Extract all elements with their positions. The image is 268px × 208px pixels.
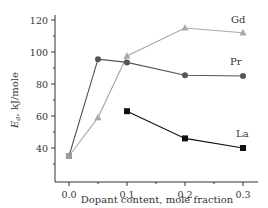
data-point-pr (95, 56, 101, 62)
series-gd (69, 24, 247, 156)
series-pr (69, 56, 246, 156)
data-point-la (240, 145, 246, 151)
x-tick-label: 0.0 (61, 189, 76, 200)
series-label-la: La (236, 128, 249, 139)
series-label-pr: Pr (230, 56, 242, 67)
data-point-gd (123, 52, 130, 58)
activation-energy-chart: 4060801001200.00.10.20.3Dopant content, … (0, 0, 268, 208)
y-tick-label: 40 (36, 143, 48, 154)
series-label-gd: Gd (231, 14, 246, 25)
data-point-gd (181, 24, 188, 30)
y-axis-title: Ea, kJ/mole (9, 72, 22, 129)
y-tick-label: 120 (30, 15, 48, 26)
data-point-pr (124, 59, 130, 65)
series-line-la (127, 111, 243, 148)
y-tick-label: 100 (30, 47, 48, 58)
series-group (66, 24, 247, 159)
data-point-pr (240, 73, 246, 79)
y-tick-label: 80 (36, 79, 48, 90)
y-tick-label: 60 (36, 111, 48, 122)
x-tick-label: 0.3 (235, 189, 250, 200)
data-point-la (124, 108, 130, 114)
data-point-la (182, 135, 188, 141)
origin-marker (66, 153, 72, 159)
x-axis-title: Dopant content, mole fraction (81, 194, 234, 205)
data-point-gd (94, 114, 101, 120)
series-la (124, 108, 246, 151)
series-line-gd (69, 28, 243, 156)
axes: 4060801001200.00.10.20.3Dopant content, … (9, 15, 258, 206)
data-point-pr (182, 72, 188, 78)
series-line-pr (69, 59, 243, 156)
